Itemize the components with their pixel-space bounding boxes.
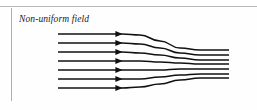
figure-panel: Non-uniform field [0, 0, 257, 110]
field-line-curve [122, 61, 229, 64]
field-lines-group [58, 34, 229, 88]
field-line-diagram [0, 0, 257, 110]
field-line-curve [122, 34, 229, 50]
field-line-curve [122, 69, 229, 70]
